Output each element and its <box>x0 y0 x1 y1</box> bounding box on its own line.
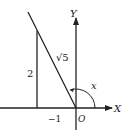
horizontal-side-label: −1 <box>48 114 61 124</box>
vertical-side-label: 2 <box>27 68 33 79</box>
trig-diagram: Y X O √5 2 −1 x <box>0 0 129 136</box>
y-axis-label: Y <box>70 8 78 19</box>
x-axis-label: X <box>113 103 122 114</box>
angle-arc <box>70 89 95 108</box>
angle-label: x <box>91 80 97 91</box>
hypotenuse-label: √5 <box>56 52 69 63</box>
origin-label: O <box>78 114 86 124</box>
hypotenuse <box>28 12 76 108</box>
